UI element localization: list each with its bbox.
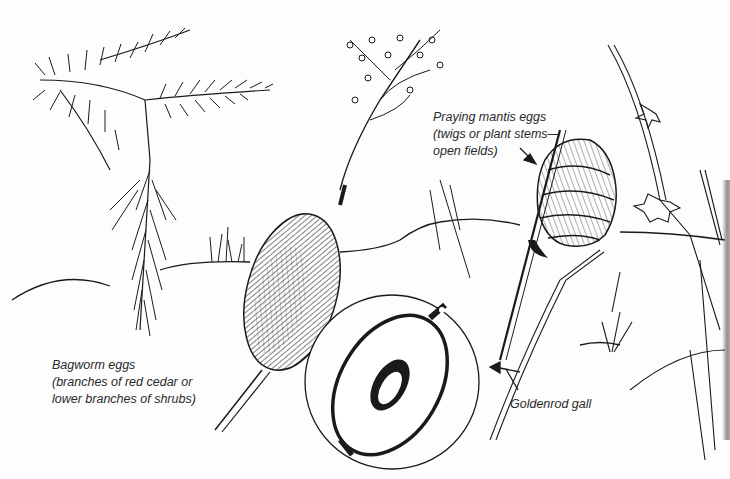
goldenrod-gall-label: Goldenrod gall — [510, 396, 591, 413]
mantis-label-title: Praying mantis eggs — [433, 109, 560, 126]
page-edge-shadow — [722, 180, 730, 440]
mantis-eggs-label: Praying mantis eggs (twigs or plant stem… — [433, 109, 560, 160]
cedar-branch — [33, 28, 273, 336]
goldenrod-label-title: Goldenrod gall — [510, 396, 591, 413]
pointer-arrows — [490, 148, 536, 390]
bagworm-label-habitat-cont: lower branches of shrubs) — [52, 391, 196, 408]
goldenrod-pointer-arrow — [500, 368, 520, 372]
bagworm-eggs-label: Bagworm eggs (branches of red cedar or l… — [52, 357, 196, 408]
grass-tufts-left — [210, 227, 244, 262]
mantis-label-habitat: (twigs or plant stems— — [433, 126, 560, 143]
bagworm-label-habitat: (branches of red cedar or — [52, 374, 196, 391]
mantis-label-habitat-cont: open fields) — [433, 143, 560, 160]
illustration-canvas: Praying mantis eggs (twigs or plant stem… — [0, 0, 730, 479]
bagworm-label-title: Bagworm eggs — [52, 357, 196, 374]
gall-cross-section-inset — [305, 295, 479, 475]
